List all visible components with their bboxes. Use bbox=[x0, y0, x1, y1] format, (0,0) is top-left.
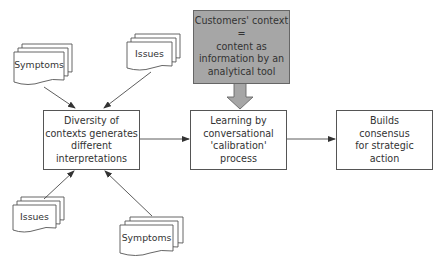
document-label-issues-top: Issues bbox=[127, 48, 172, 59]
document-label-symptoms-bottom: Symptoms bbox=[120, 232, 173, 243]
arrow-symptoms-bottom-to-diversity bbox=[105, 171, 152, 216]
diversity-of-contexts-label: Diversity of contexts generates differen… bbox=[45, 115, 138, 165]
arrow-issues-top-to-diversity bbox=[104, 72, 151, 108]
arrow-symptoms-top-to-diversity bbox=[44, 87, 75, 108]
customers-context-label: Customers' context = content as informat… bbox=[195, 15, 288, 79]
document-label-symptoms-top-left: Symptoms bbox=[14, 59, 64, 70]
diversity-of-contexts-box: Diversity of contexts generates differen… bbox=[43, 110, 140, 170]
customers-context-box: Customers' context = content as informat… bbox=[193, 10, 290, 84]
builds-consensus-box: Builds consensus for strategic action bbox=[336, 110, 433, 170]
learning-calibration-box: Learning by conversational 'calibration'… bbox=[190, 110, 287, 170]
arrow-issues-bottom-to-diversity bbox=[44, 171, 74, 199]
block-arrow-context-to-learning bbox=[227, 83, 253, 109]
builds-consensus-label: Builds consensus for strategic action bbox=[355, 115, 414, 165]
learning-calibration-label: Learning by conversational 'calibration'… bbox=[203, 115, 274, 165]
document-label-issues-bottom-left: Issues bbox=[13, 211, 56, 222]
